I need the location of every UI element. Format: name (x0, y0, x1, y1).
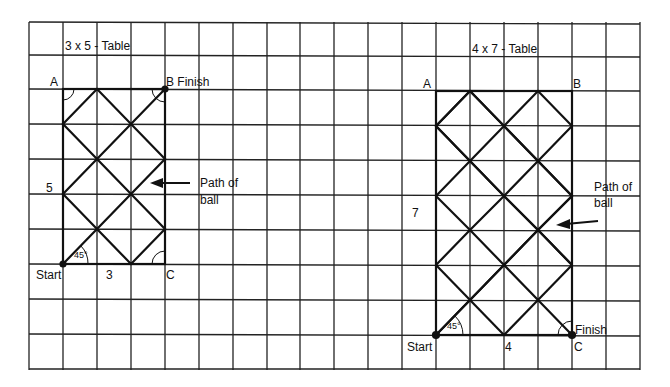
right-corner-a: A (423, 78, 431, 90)
left-height-label: 5 (46, 182, 53, 194)
right-table-title: 4 x 7 - Table (472, 43, 537, 55)
right-path-label-2: ball (594, 197, 613, 209)
left-table-title: 3 x 5 - Table (65, 40, 130, 52)
right-finish: Finish (575, 324, 607, 336)
right-corner-b: B (573, 78, 581, 90)
table-3x5 (61, 87, 168, 267)
right-width-label: 4 (505, 341, 512, 353)
left-angle: 45° (74, 251, 88, 260)
ball-path-3x5 (63, 89, 165, 264)
left-corner-c: C (166, 269, 175, 281)
arrow-right-table (556, 219, 598, 229)
left-start: Start (36, 269, 61, 281)
left-corner-b-finish: B Finish (166, 76, 209, 88)
right-start: Start (407, 341, 432, 353)
left-path-label-1: Path of (200, 177, 238, 189)
right-height-label: 7 (412, 207, 419, 219)
right-angle: 45° (447, 322, 461, 331)
right-corner-c: C (574, 341, 583, 353)
right-path-label-1: Path of (594, 181, 632, 193)
grid-diagram (0, 0, 670, 387)
left-width-label: 3 (106, 269, 113, 281)
left-path-label-2: ball (200, 194, 219, 206)
left-corner-a: A (50, 76, 58, 88)
background-grid (29, 22, 640, 370)
arrow-left-table (150, 178, 190, 188)
